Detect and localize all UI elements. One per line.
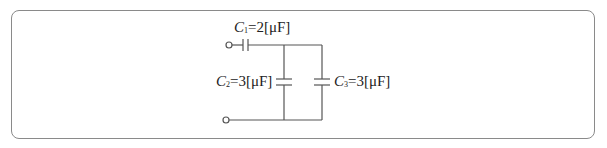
- terminal-top-icon: [226, 42, 232, 48]
- c3-symbol: C: [334, 73, 344, 89]
- c3-subscript: 3: [344, 80, 348, 89]
- circuit-diagram: [0, 0, 607, 148]
- c3-label: C3=3[μF]: [334, 74, 390, 89]
- c1-subscript: 1: [244, 26, 248, 35]
- terminal-bottom-icon: [223, 117, 229, 123]
- c1-value: =2[μF]: [248, 19, 290, 35]
- c2-subscript: 2: [226, 80, 230, 89]
- c1-symbol: C: [234, 19, 244, 35]
- c2-value: =3[μF]: [230, 73, 272, 89]
- c2-label: C2=3[μF]: [216, 74, 272, 89]
- c1-label: C1=2[μF]: [234, 20, 290, 35]
- c3-value: =3[μF]: [348, 73, 390, 89]
- c2-symbol: C: [216, 73, 226, 89]
